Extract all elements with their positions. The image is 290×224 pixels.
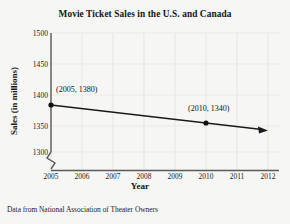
data-label-2005: (2005, 1380) <box>56 85 97 94</box>
data-point-marker <box>203 120 208 125</box>
y-axis <box>47 33 55 169</box>
plot-area <box>0 0 290 224</box>
data-series-line <box>51 105 268 134</box>
line-end-arrow-icon <box>258 127 268 134</box>
chart-figure: Movie Ticket Sales in the U.S. and Canad… <box>0 0 290 224</box>
data-label-2010: (2010, 1340) <box>188 104 229 113</box>
source-note: Data from National Association of Theate… <box>7 205 158 214</box>
data-point-marker <box>48 102 53 107</box>
gridlines <box>51 33 280 171</box>
